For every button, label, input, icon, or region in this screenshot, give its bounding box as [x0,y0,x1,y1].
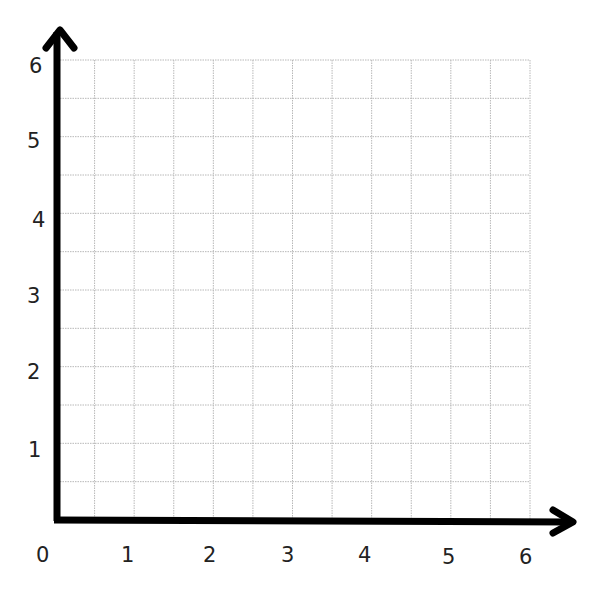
x-axis [54,510,573,533]
y-tick-3: 3 [27,286,40,307]
coordinate-grid [0,0,591,593]
x-tick-6: 6 [519,547,532,568]
y-tick-2: 2 [27,362,40,383]
grid-lines [55,60,530,520]
y-tick-1: 1 [28,440,41,461]
x-tick-4: 4 [358,545,371,566]
y-tick-4: 4 [32,210,45,231]
x-tick-5: 5 [442,547,455,568]
x-tick-3: 3 [281,545,294,566]
y-tick-6: 6 [29,56,42,77]
x-tick-1: 1 [121,545,134,566]
x-tick-0: 0 [36,545,49,566]
y-axis [46,30,74,521]
x-tick-2: 2 [203,545,216,566]
y-tick-5: 5 [27,131,40,152]
